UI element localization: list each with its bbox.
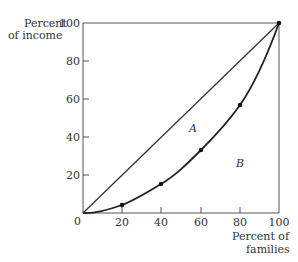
- y-tick-20: 20: [56, 169, 80, 182]
- y-axis-label-line2: of income: [8, 30, 63, 42]
- x-axis-label-line2: families: [246, 244, 290, 256]
- y-tick-marks: [83, 61, 89, 175]
- x-tick-20: 20: [107, 216, 137, 229]
- y-tick-40: 40: [56, 131, 80, 144]
- y-tick-80: 80: [56, 55, 80, 68]
- x-tick-60: 60: [186, 216, 216, 229]
- x-tick-40: 40: [146, 216, 176, 229]
- y-tick-60: 60: [56, 93, 80, 106]
- x-tick-80: 80: [225, 216, 255, 229]
- data-points: [120, 21, 282, 208]
- x-tick-100: 100: [264, 216, 294, 229]
- x-axis-label-line1: Percent of: [232, 231, 289, 243]
- origin-label: 0: [74, 216, 81, 228]
- line-of-equality: [83, 23, 279, 213]
- area-b-label: B: [236, 157, 244, 170]
- x-tick-marks: [122, 207, 240, 213]
- area-a-label: A: [189, 122, 197, 135]
- y-tick-100: 100: [56, 17, 80, 30]
